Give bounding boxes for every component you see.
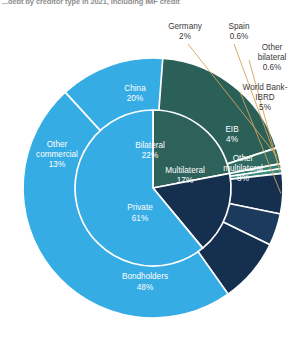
label-germany-pct: 2% xyxy=(179,32,191,41)
label-bilateral-name: Bilateral xyxy=(135,141,165,150)
sunburst-chart-figure: ...debt by creditor type in 2021, includ… xyxy=(0,0,306,359)
label-world-bank-line1: World Bank- xyxy=(243,83,288,92)
label-other-comm-line2: commercial xyxy=(36,150,78,159)
label-spain: Spain 0.6% xyxy=(229,22,250,41)
label-bondholders-pct: 48% xyxy=(137,283,153,292)
label-china-name: China xyxy=(124,84,146,93)
label-spain-name: Spain xyxy=(229,22,250,31)
label-other-bilateral-line1: Other xyxy=(262,43,283,52)
label-bilateral-pct: 22% xyxy=(142,151,158,160)
label-china-pct: 20% xyxy=(127,94,143,103)
inner-ring-group xyxy=(75,110,231,266)
label-germany: Germany 2% xyxy=(168,22,203,41)
label-private-pct: 61% xyxy=(132,214,148,223)
label-multilateral-pct: 17% xyxy=(177,176,193,185)
label-eib-pct: 4% xyxy=(226,135,238,144)
label-other-comm-pct: 13% xyxy=(49,160,65,169)
label-world-bank-line2: IBRD xyxy=(255,93,275,102)
label-spain-pct: 0.6% xyxy=(230,32,249,41)
label-other-multi-line1: Other xyxy=(233,154,254,163)
label-bondholders-name: Bondholders xyxy=(122,272,168,281)
label-china: China 20% xyxy=(124,84,146,103)
label-other-multi-pct: 8% xyxy=(237,174,249,183)
label-private-name: Private xyxy=(127,203,153,212)
label-other-bilateral-pct: 0.6% xyxy=(263,63,282,72)
label-eib-name: EIB xyxy=(225,125,239,134)
label-other-comm-line1: Other xyxy=(47,140,68,149)
label-world-bank-pct: 5% xyxy=(259,103,271,112)
label-other-multi-line2: multilateral xyxy=(223,164,263,173)
label-multilateral-name: Multilateral xyxy=(165,166,205,175)
label-germany-name: Germany xyxy=(168,22,203,31)
label-eib: EIB 4% xyxy=(225,125,239,144)
sunburst-chart-svg: Germany 2% Spain 0.6% Other bilateral 0.… xyxy=(0,0,306,359)
label-other-bilateral: Other bilateral 0.6% xyxy=(258,43,287,72)
label-other-bilateral-line2: bilateral xyxy=(258,53,287,62)
